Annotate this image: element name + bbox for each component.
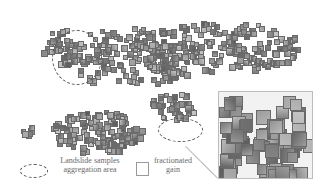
sample-tile — [198, 44, 205, 51]
fractionated-gain-legend-icon — [136, 162, 149, 176]
inset-sample-tile — [223, 168, 237, 179]
sample-tile — [119, 119, 126, 126]
sample-tile — [67, 138, 73, 144]
sample-tile — [256, 66, 261, 71]
sample-tile — [125, 135, 131, 141]
zoomed-inset — [218, 91, 313, 179]
aggregation-area-outline — [158, 118, 203, 142]
sample-tile — [184, 72, 191, 79]
sample-tile — [162, 58, 169, 65]
sample-tile — [107, 112, 114, 119]
sample-tile — [116, 114, 121, 119]
sample-tile — [85, 111, 90, 116]
sample-tile — [71, 116, 77, 122]
sample-tile — [89, 126, 94, 131]
sample-tile — [182, 54, 189, 61]
sample-tile — [179, 92, 185, 98]
sample-tile — [137, 135, 144, 142]
sample-tile — [58, 138, 64, 144]
sample-tile — [226, 48, 233, 55]
sample-tile — [170, 70, 177, 77]
sample-tile — [102, 37, 109, 44]
inset-sample-tile — [287, 152, 298, 163]
sample-tile — [141, 27, 146, 32]
sample-tile — [158, 109, 164, 115]
sample-tile — [107, 148, 112, 153]
inset-sample-tile — [292, 111, 305, 124]
sample-tile — [274, 39, 280, 45]
sample-tile — [182, 33, 187, 38]
sample-tile — [163, 75, 169, 81]
sample-tile — [146, 34, 153, 41]
sample-tile — [133, 140, 138, 145]
sample-tile — [129, 59, 136, 66]
sample-tile — [116, 148, 123, 155]
sample-tile — [259, 26, 265, 32]
sample-tile — [237, 57, 244, 64]
sample-tile — [181, 66, 187, 72]
sample-tile — [84, 132, 90, 138]
aggregation-area-legend-label: Landslide samples aggregation area — [60, 156, 120, 174]
sample-tile — [214, 24, 220, 30]
sample-tile — [151, 77, 157, 83]
sample-tile — [96, 113, 103, 120]
sample-tile — [148, 64, 153, 69]
figure: Landslide samples aggregation area fract… — [0, 0, 325, 188]
sample-tile — [147, 55, 154, 62]
sample-tile — [138, 77, 144, 83]
sample-tile — [216, 58, 223, 65]
sample-tile — [283, 40, 289, 46]
sample-tile — [117, 36, 123, 42]
sample-tile — [109, 129, 115, 135]
sample-tile — [53, 123, 59, 129]
inset-sample-tile — [253, 139, 265, 151]
sample-tile — [50, 31, 55, 36]
sample-tile — [198, 58, 205, 65]
sample-tile — [168, 43, 173, 48]
sample-tile — [169, 106, 175, 112]
sample-tile — [29, 125, 35, 131]
sample-tile — [209, 69, 215, 75]
sample-tile — [207, 41, 212, 46]
sample-tile — [110, 30, 117, 37]
sample-tile — [273, 31, 279, 37]
sample-tile — [251, 31, 257, 37]
sample-tile — [212, 51, 218, 57]
inset-sample-tile — [224, 99, 236, 111]
inset-sample-tile — [292, 132, 307, 147]
sample-tile — [126, 34, 133, 41]
sample-tile — [185, 105, 192, 112]
sample-tile — [217, 32, 222, 37]
sample-tile — [100, 140, 106, 146]
inset-sample-tile — [269, 120, 283, 134]
inset-sample-tile — [230, 129, 244, 143]
inset-sample-tile — [241, 144, 253, 156]
inset-sample-tile — [290, 99, 302, 111]
sample-tile — [132, 133, 138, 139]
aggregation-area-legend-icon — [20, 164, 48, 178]
sample-tile — [123, 55, 128, 60]
sample-tile — [137, 57, 142, 62]
sample-tile — [114, 51, 120, 57]
sample-tile — [274, 60, 280, 66]
inset-sample-tile — [279, 133, 292, 146]
sample-tile — [131, 74, 137, 80]
sample-tile — [243, 22, 249, 28]
sample-tile — [191, 23, 197, 29]
sample-tile — [181, 44, 186, 49]
sample-tile — [273, 51, 280, 58]
sample-tile — [139, 128, 146, 135]
sample-tile — [241, 29, 247, 35]
sample-tile — [60, 125, 66, 131]
sample-tile — [161, 31, 166, 36]
sample-tile — [161, 115, 166, 120]
sample-tile — [172, 95, 178, 101]
inset-sample-tile — [275, 166, 290, 179]
sample-tile — [130, 67, 136, 73]
sample-tile — [41, 50, 48, 57]
sample-tile — [171, 29, 177, 35]
inset-sample-tile — [220, 122, 232, 134]
fractionated-gain-legend-label: fractionated gain — [150, 156, 196, 174]
sample-tile — [116, 78, 122, 84]
sample-tile — [149, 42, 156, 49]
